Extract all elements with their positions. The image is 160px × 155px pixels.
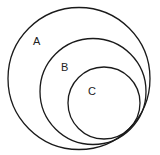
label-a: A <box>33 35 41 47</box>
label-b: B <box>61 61 68 73</box>
label-c: C <box>88 85 96 97</box>
nested-venn-diagram: A B C <box>0 0 160 155</box>
circle-c <box>68 67 140 139</box>
